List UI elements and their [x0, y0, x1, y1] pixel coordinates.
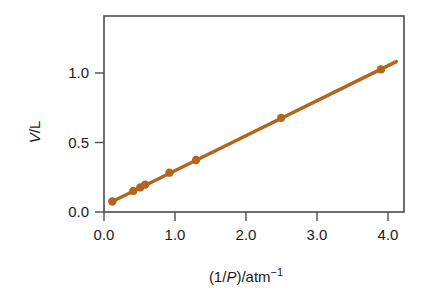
x-tick-label-2: 2.0 [236, 226, 257, 243]
x-tick-label-3: 3.0 [307, 226, 328, 243]
chart-canvas: 0.0 1.0 2.0 3.0 4.0 0.0 0.5 1.0 V/L (1/P… [0, 0, 426, 306]
data-point [192, 156, 200, 164]
y-tick-label-0: 0.0 [68, 203, 89, 220]
data-trend-line [112, 62, 396, 202]
x-tick-label-0: 0.0 [94, 226, 115, 243]
x-tick-label-1: 1.0 [165, 226, 186, 243]
y-axis-ticks [95, 73, 104, 212]
x-axis-title-post: )/atm [236, 268, 270, 285]
x-axis-title-italic: P [226, 268, 236, 285]
data-point [277, 114, 285, 122]
x-axis-title: (1/P)/atm−1 [209, 266, 283, 285]
data-point [377, 65, 385, 73]
y-axis-title: V/L [26, 121, 43, 144]
y-tick-label-1: 0.5 [68, 134, 89, 151]
y-axis-title-post: /L [26, 121, 43, 134]
y-tick-label-2: 1.0 [68, 64, 89, 81]
chart-figure: 0.0 1.0 2.0 3.0 4.0 0.0 0.5 1.0 V/L (1/P… [0, 0, 426, 306]
x-axis-title-superscript: −1 [271, 266, 284, 278]
x-tick-label-4: 4.0 [378, 226, 399, 243]
data-point [165, 168, 173, 176]
x-axis-ticks [104, 212, 388, 221]
data-point [108, 197, 116, 205]
x-axis-title-pre: (1/ [209, 268, 227, 285]
data-point [141, 180, 149, 188]
